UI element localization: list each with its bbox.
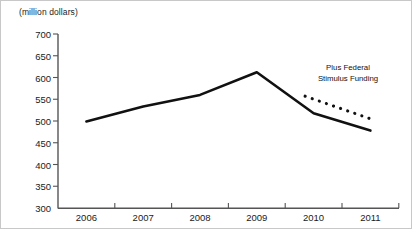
- chart-container: (million dollars) 700 650 600 550 500 45…: [0, 0, 412, 229]
- plot-area: [1, 1, 412, 229]
- axis-lines: [58, 34, 399, 209]
- data-line-revenue: [86, 72, 370, 130]
- data-line-stimulus-funding: [305, 96, 370, 119]
- x-axis-ticks: [115, 203, 399, 208]
- y-axis-ticks: [53, 34, 58, 186]
